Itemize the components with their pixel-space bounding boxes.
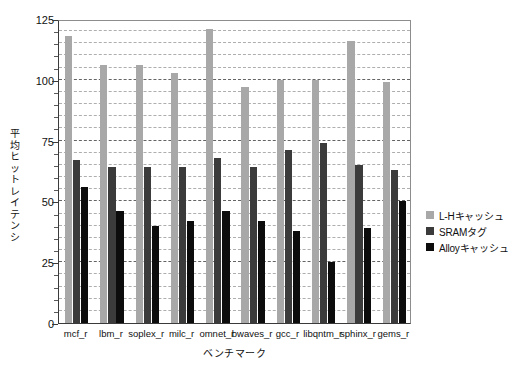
legend-item: SRAMタグ xyxy=(426,223,521,239)
bar xyxy=(383,82,390,323)
bar-group xyxy=(136,21,159,323)
x-axis-title: ベンチマーク xyxy=(58,345,411,360)
bar xyxy=(144,167,151,323)
legend: L-HキャッシュSRAMタグAlloyキャッシュ xyxy=(426,207,521,255)
bar xyxy=(364,228,371,323)
legend-item-label: SRAMタグ xyxy=(439,224,487,239)
bar xyxy=(179,167,186,323)
x-axis-tick-label: lbm_r xyxy=(99,328,123,339)
plot-area xyxy=(58,20,411,324)
bar xyxy=(391,170,398,323)
x-axis-tick-label: bwaves_r xyxy=(232,328,273,339)
bar-group xyxy=(206,21,229,323)
x-axis-tick-label: sphinx_r xyxy=(340,328,376,339)
legend-item-label: L-Hキャッシュ xyxy=(439,208,504,223)
bar-group xyxy=(383,21,406,323)
bar-group xyxy=(277,21,300,323)
bar xyxy=(250,167,257,323)
y-axis-tick-labels: 0255075100125 xyxy=(12,0,54,369)
bar xyxy=(214,158,221,323)
bar-group xyxy=(312,21,335,323)
y-axis-tick-label: 0 xyxy=(24,318,54,330)
x-axis-tick-label: mcf_r xyxy=(64,328,88,339)
legend-item-label: Alloyキャッシュ xyxy=(439,240,509,255)
legend-swatch-light-gray-icon xyxy=(426,211,434,219)
y-axis-tick-label: 125 xyxy=(24,14,54,26)
bar xyxy=(65,36,72,323)
x-axis-tick-label: gcc_r xyxy=(276,328,299,339)
x-axis-tick-label: omnet_r xyxy=(199,328,234,339)
bar xyxy=(399,201,406,323)
bar xyxy=(241,87,248,323)
legend-swatch-black-icon xyxy=(426,243,434,251)
axis-tick-major xyxy=(52,324,58,325)
legend-swatch-dark-gray-icon xyxy=(426,227,434,235)
bar xyxy=(285,150,292,323)
legend-item: L-Hキャッシュ xyxy=(426,207,521,223)
bar-group xyxy=(171,21,194,323)
x-axis-tick-label: soplex_r xyxy=(128,328,164,339)
bar-group xyxy=(241,21,264,323)
bar xyxy=(258,221,265,323)
bar xyxy=(152,226,159,323)
x-axis-tick-label: libqntm_r xyxy=(303,328,342,339)
bar-group xyxy=(100,21,123,323)
bar xyxy=(328,262,335,323)
bar xyxy=(187,221,194,323)
bar xyxy=(81,187,88,323)
y-axis-tick-label: 75 xyxy=(24,136,54,148)
x-axis-tick-label: milc_r xyxy=(169,328,194,339)
bar xyxy=(277,80,284,323)
bar xyxy=(100,65,107,323)
legend-item: Alloyキャッシュ xyxy=(426,239,521,255)
bar xyxy=(293,231,300,323)
x-axis-tick-label: gems_r xyxy=(378,328,410,339)
bar xyxy=(320,143,327,323)
bar xyxy=(347,41,354,323)
bar xyxy=(73,160,80,323)
bar-chart: 平 均 ヒ ッ ト レ イ テ ン シ 0255075100125 mcf_rl… xyxy=(0,0,521,369)
y-axis-tick-label: 100 xyxy=(24,75,54,87)
bar xyxy=(222,211,229,323)
y-axis-tick-label: 50 xyxy=(24,196,54,208)
y-axis-tick-label: 25 xyxy=(24,257,54,269)
bar xyxy=(206,29,213,323)
bar xyxy=(116,211,123,323)
bar xyxy=(355,165,362,323)
bar xyxy=(136,65,143,323)
bar-group xyxy=(347,21,370,323)
bar xyxy=(312,80,319,323)
bar xyxy=(171,73,178,323)
bar xyxy=(108,167,115,323)
bar-group xyxy=(65,21,88,323)
